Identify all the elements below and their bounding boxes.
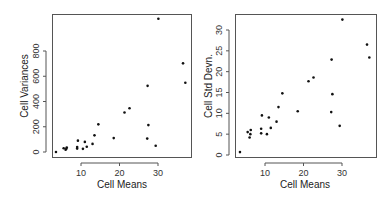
stddev-scatter-plot: 102030 051015202530 Cell Means Cell Std … — [203, 15, 377, 191]
y-tick-label: 10 — [214, 108, 224, 118]
data-point — [76, 146, 79, 149]
x-axis-ticks: 102030 — [260, 163, 347, 178]
data-point — [84, 141, 87, 144]
data-point — [307, 80, 310, 83]
data-point — [260, 127, 263, 130]
data-point — [312, 76, 315, 79]
y-tick-label: 20 — [214, 67, 224, 77]
y-tick-label: 0 — [31, 149, 41, 154]
data-point — [296, 110, 299, 113]
y-tick-label: 15 — [214, 87, 224, 97]
data-point — [330, 111, 333, 114]
data-point — [248, 136, 251, 139]
x-tick-label: 20 — [114, 168, 124, 178]
data-point — [275, 120, 278, 123]
data-point — [266, 133, 269, 136]
data-point — [260, 132, 263, 135]
plot-frame — [53, 15, 192, 158]
data-point — [85, 145, 88, 148]
x-tick-label: 30 — [153, 168, 163, 178]
data-point — [281, 92, 284, 95]
y-axis-title: Cell Variances — [19, 54, 30, 118]
data-point — [128, 107, 131, 110]
data-point — [147, 124, 150, 127]
y-tick-label: 600 — [31, 69, 41, 84]
x-axis-title: Cell Means — [280, 179, 330, 190]
x-axis-ticks: 102030 — [76, 163, 163, 178]
data-point — [91, 143, 94, 146]
data-point — [246, 131, 249, 134]
data-point — [366, 43, 369, 46]
data-point — [97, 123, 100, 126]
y-tick-label: 800 — [31, 43, 41, 58]
y-tick-label: 25 — [214, 46, 224, 56]
data-point — [77, 139, 80, 142]
data-point — [182, 62, 185, 65]
data-point — [184, 82, 187, 85]
data-point — [277, 106, 280, 109]
variance-scatter-plot: 102030 0200400600800 Cell Means Cell Var… — [19, 15, 192, 191]
data-point — [112, 137, 115, 140]
data-point — [154, 145, 157, 148]
data-point — [55, 151, 58, 154]
data-point — [249, 129, 252, 132]
data-point — [268, 116, 271, 119]
data-point — [93, 134, 96, 137]
x-axis-title: Cell Means — [97, 179, 147, 190]
data-point — [261, 114, 264, 117]
x-tick-label: 30 — [337, 168, 347, 178]
data-point — [146, 85, 149, 88]
data-point — [82, 148, 85, 151]
y-tick-label: 200 — [31, 119, 41, 134]
data-points — [239, 18, 371, 153]
x-tick-label: 10 — [76, 168, 86, 178]
data-point — [239, 151, 242, 154]
chart-canvas: 102030 0200400600800 Cell Means Cell Var… — [0, 0, 391, 203]
data-point — [123, 111, 126, 114]
y-tick-label: 0 — [214, 152, 224, 157]
data-point — [330, 58, 333, 61]
y-axis-ticks: 051015202530 — [214, 25, 229, 158]
y-tick-label: 5 — [214, 132, 224, 137]
y-axis-ticks: 0200400600800 — [31, 43, 46, 154]
data-point — [157, 17, 160, 20]
y-tick-label: 30 — [214, 25, 224, 35]
x-tick-label: 10 — [260, 168, 270, 178]
data-point — [146, 137, 149, 140]
data-point — [65, 146, 68, 149]
data-point — [338, 125, 341, 128]
data-points — [55, 17, 187, 153]
data-point — [341, 18, 344, 21]
data-point — [249, 133, 252, 136]
x-tick-label: 20 — [298, 168, 308, 178]
plot-frame — [236, 15, 377, 158]
data-point — [368, 56, 371, 59]
data-point — [269, 127, 272, 130]
y-tick-label: 400 — [31, 94, 41, 109]
data-point — [331, 93, 334, 96]
y-axis-title: Cell Std Devn. — [203, 54, 214, 118]
